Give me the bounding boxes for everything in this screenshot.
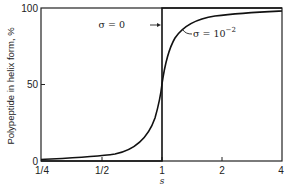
annotation-sigma-1e-2: σ = 10−2: [193, 26, 236, 39]
annotation-sigma-0: σ = 0: [98, 19, 125, 30]
chart: 100 50 0 1/4 1/2 1 2 4 s Polypeptide in …: [0, 0, 287, 185]
x-tick-label-1: 1: [159, 165, 165, 176]
y-tick-label-50: 50: [27, 79, 39, 90]
annotation-sigma-1e-2-exp: −2: [226, 26, 236, 34]
annotation-leader-sigma-1e-2: [183, 30, 192, 34]
annotation-sigma-1e-2-base: σ = 10: [193, 28, 226, 39]
x-axis-label: s: [160, 176, 165, 185]
y-tick-label-100: 100: [21, 3, 38, 14]
x-tick-label-quarter: 1/4: [35, 165, 49, 176]
x-tick-label-4: 4: [278, 165, 284, 176]
y-axis-label: Polypeptide in helix form, %: [5, 27, 16, 145]
x-tick-label-2: 2: [219, 165, 225, 176]
x-tick-label-half: 1/2: [95, 165, 109, 176]
arrowhead-icon: [157, 23, 161, 27]
